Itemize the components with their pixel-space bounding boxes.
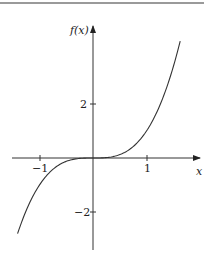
- x-tick-label-neg1: −1: [32, 162, 48, 175]
- x-axis-label: x: [196, 165, 203, 178]
- y-axis-label: f(x): [69, 24, 89, 37]
- function-curve: [18, 41, 181, 234]
- function-plot: f(x) x −1 1 2 −2: [0, 0, 214, 260]
- x-tick-label-1: 1: [144, 162, 151, 175]
- y-tick-label-2: 2: [80, 98, 87, 111]
- y-tick-label-neg2: −2: [74, 206, 90, 219]
